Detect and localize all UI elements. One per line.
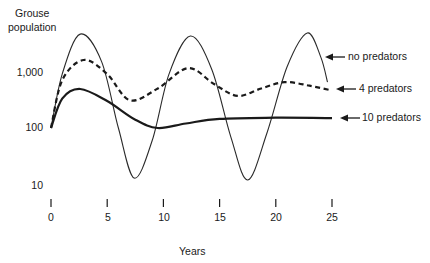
x-axis-ticks — [51, 199, 332, 207]
y-tick-label-100: 100 — [3, 121, 43, 133]
legend-10-predators: 10 predators — [362, 111, 421, 123]
x-tick-label-0: 0 — [41, 211, 61, 223]
x-tick-label-15: 15 — [210, 211, 230, 223]
arrow-icon — [336, 86, 356, 93]
x-tick-label-5: 5 — [98, 211, 118, 223]
legend-arrows — [325, 54, 360, 122]
series-no-predators — [51, 33, 328, 180]
x-tick-label-10: 10 — [154, 211, 174, 223]
y-axis-title-line1: Grouse — [8, 6, 56, 20]
arrow-icon — [325, 54, 345, 61]
y-axis-title: Grouse population — [8, 6, 56, 34]
y-axis-title-line2: population — [8, 20, 56, 34]
series-10-predators — [51, 89, 332, 128]
legend-4-predators: 4 predators — [359, 82, 412, 94]
x-tick-label-25: 25 — [322, 211, 342, 223]
chart-plot-area — [0, 0, 430, 263]
x-axis-title: Years — [179, 245, 205, 257]
x-tick-label-20: 20 — [266, 211, 286, 223]
y-tick-label-10: 10 — [3, 179, 43, 191]
y-tick-label-1000: 1,000 — [3, 66, 43, 78]
arrow-icon — [340, 115, 360, 122]
legend-no-predators: no predators — [348, 50, 407, 62]
